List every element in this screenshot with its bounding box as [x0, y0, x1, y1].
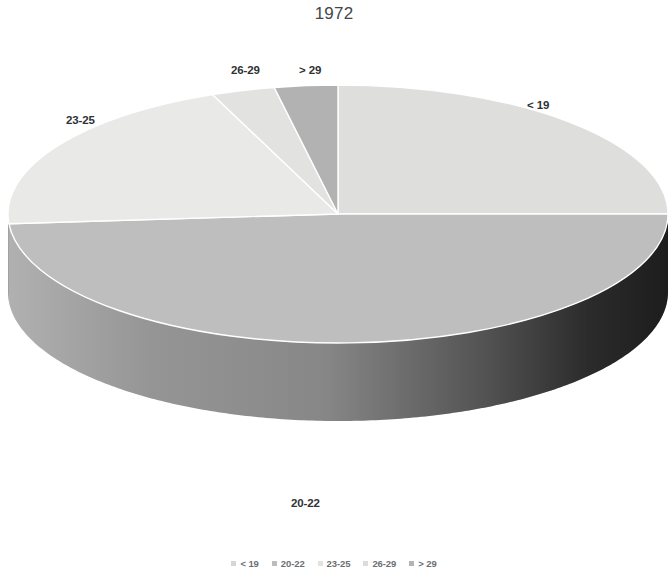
slice-label-gt29: > 29	[299, 64, 321, 76]
legend-swatch-icon	[272, 561, 277, 566]
legend-swatch-icon	[318, 561, 323, 566]
legend-item[interactable]: 20-22	[272, 558, 305, 569]
legend-item[interactable]: 26-29	[363, 558, 396, 569]
pie-slice-19[interactable]	[338, 85, 668, 214]
legend-label: 26-29	[372, 558, 396, 569]
legend-label: > 29	[418, 558, 436, 569]
slice-label-20-22: 20-22	[291, 497, 320, 509]
legend-label: 20-22	[281, 558, 305, 569]
legend-item[interactable]: > 29	[409, 558, 436, 569]
legend-swatch-icon	[231, 561, 236, 566]
pie-chart-canvas	[0, 0, 668, 575]
legend-item[interactable]: < 19	[231, 558, 258, 569]
legend-label: 23-25	[327, 558, 351, 569]
pie-chart-figure: 1972 < 19 20-22 23-25 26-29 > 29 < 1920-…	[0, 0, 668, 575]
legend-item[interactable]: 23-25	[318, 558, 351, 569]
slice-label-26-29: 26-29	[231, 64, 260, 76]
pie-slice-wall-shading	[8, 214, 9, 301]
slice-label-lt19: < 19	[527, 99, 549, 111]
legend-swatch-icon	[363, 561, 368, 566]
legend-label: < 19	[240, 558, 258, 569]
slice-label-23-25: 23-25	[66, 114, 95, 126]
pie-top-surface	[8, 85, 668, 343]
chart-legend: < 1920-2223-2526-29> 29	[0, 558, 668, 569]
legend-swatch-icon	[409, 561, 414, 566]
